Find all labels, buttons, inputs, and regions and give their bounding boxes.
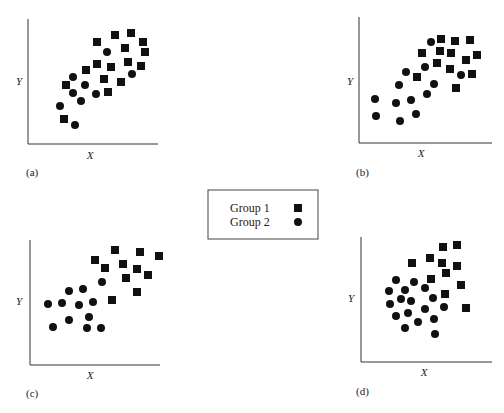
square-marker — [139, 38, 147, 46]
circle-marker — [392, 312, 400, 320]
circle-marker — [430, 315, 438, 323]
square-marker — [107, 63, 115, 71]
circle-marker — [85, 313, 93, 321]
circle-marker — [427, 38, 435, 46]
circle-marker — [65, 287, 73, 295]
circle-marker — [371, 95, 379, 103]
panel-caption: (b) — [356, 166, 369, 179]
square-marker — [462, 304, 470, 312]
square-marker — [121, 44, 129, 52]
circle-marker — [397, 295, 405, 303]
square-marker — [104, 88, 112, 96]
square-marker — [100, 75, 108, 83]
square-marker — [119, 260, 127, 268]
circle-marker — [431, 330, 439, 338]
legend-circle-icon — [294, 218, 302, 226]
circle-marker — [421, 305, 429, 313]
square-marker — [436, 47, 444, 55]
circle-marker — [392, 276, 400, 284]
square-marker — [437, 35, 445, 43]
circle-marker — [128, 70, 136, 78]
circle-marker — [77, 97, 85, 105]
circle-marker — [396, 117, 404, 125]
panel-caption: (c) — [26, 387, 39, 400]
square-marker — [124, 58, 132, 66]
legend-square-icon — [294, 204, 302, 212]
square-marker — [473, 51, 481, 59]
square-marker — [453, 241, 461, 249]
circle-marker — [97, 324, 105, 332]
square-marker — [62, 81, 70, 89]
square-marker — [468, 70, 476, 78]
y-axis-label: Y — [348, 292, 356, 304]
square-marker — [82, 66, 90, 74]
square-marker — [408, 259, 416, 267]
square-marker — [439, 243, 447, 251]
scatter-panel-b: YX(b) — [347, 17, 492, 179]
y-axis-label: Y — [16, 75, 24, 87]
series-group-2 — [44, 278, 106, 332]
square-marker — [453, 262, 461, 270]
circle-marker — [410, 278, 418, 286]
circle-marker — [407, 297, 415, 305]
square-marker — [111, 31, 119, 39]
square-marker — [462, 56, 470, 64]
square-marker — [133, 265, 141, 273]
circle-marker — [386, 300, 394, 308]
circle-marker — [421, 63, 429, 71]
x-axis-label: X — [86, 149, 95, 161]
square-marker — [427, 275, 435, 283]
square-marker — [101, 264, 109, 272]
circle-marker — [49, 323, 57, 331]
legend: Group 1Group 2 — [208, 190, 318, 239]
figure-canvas: YX(a)YX(b)YX(c)YX(d)Group 1Group 2 — [0, 0, 504, 413]
square-marker — [108, 296, 116, 304]
circle-marker — [58, 299, 66, 307]
square-marker — [441, 290, 449, 298]
series-group-1 — [408, 241, 470, 312]
square-marker — [426, 254, 434, 262]
scatter-panel-c: YX(c) — [16, 240, 163, 400]
circle-marker — [395, 81, 403, 89]
circle-marker — [79, 285, 87, 293]
square-marker — [442, 269, 450, 277]
panel-caption: (a) — [26, 166, 39, 179]
square-marker — [144, 271, 152, 279]
circle-marker — [407, 96, 415, 104]
circle-marker — [457, 71, 465, 79]
square-marker — [127, 29, 135, 37]
circle-marker — [423, 90, 431, 98]
square-marker — [93, 60, 101, 68]
square-marker — [413, 73, 421, 81]
circle-marker — [402, 68, 410, 76]
circle-marker — [372, 112, 380, 120]
square-marker — [122, 274, 130, 282]
square-marker — [136, 248, 144, 256]
x-axis-label: X — [86, 369, 95, 381]
square-marker — [155, 252, 163, 260]
square-marker — [451, 37, 459, 45]
square-marker — [137, 62, 145, 70]
y-axis-label: Y — [347, 75, 355, 87]
square-marker — [91, 256, 99, 264]
panel-caption: (d) — [356, 385, 369, 398]
circle-marker — [81, 81, 89, 89]
x-axis-label: X — [417, 147, 426, 159]
circle-marker — [414, 318, 422, 326]
square-marker — [452, 84, 460, 92]
circle-marker — [412, 110, 420, 118]
square-marker — [433, 59, 441, 67]
circle-marker — [89, 298, 97, 306]
square-marker — [111, 246, 119, 254]
series-group-1 — [91, 246, 163, 304]
square-marker — [133, 288, 141, 296]
square-marker — [438, 259, 446, 267]
circle-marker — [429, 294, 437, 302]
circle-marker — [92, 90, 100, 98]
circle-marker — [56, 102, 64, 110]
square-marker — [447, 49, 455, 57]
square-marker — [60, 115, 68, 123]
circle-marker — [69, 89, 77, 97]
axes — [359, 17, 492, 143]
circle-marker — [421, 284, 429, 292]
